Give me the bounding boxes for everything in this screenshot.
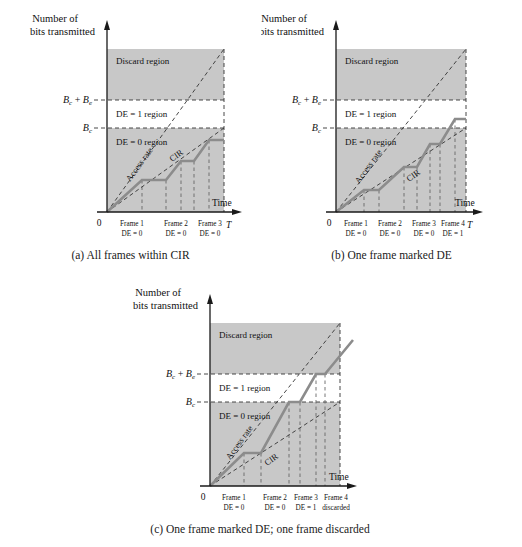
y-axis-arrow — [333, 20, 339, 30]
region-de0-label: DE = 0 region — [219, 411, 271, 421]
frame-status: DE = 0 — [380, 230, 401, 238]
frame-name: Frame 1 — [222, 494, 246, 502]
frame-name: Frame 2 — [164, 220, 188, 228]
region-de0-label: DE = 0 region — [345, 137, 397, 147]
region-de1-label: DE = 1 region — [116, 109, 168, 119]
frame-status: DE = 0 — [166, 230, 187, 238]
frame-status: DE = 0 — [346, 230, 367, 238]
region-discard-label: Discard region — [345, 56, 399, 66]
frame-name: Frame 2 — [378, 220, 402, 228]
y-axis-label-line2: bits transmitted — [30, 26, 96, 37]
x-axis-arrow — [347, 483, 357, 489]
frame-name: Frame 2 — [263, 494, 287, 502]
threshold-bc-be-label: Bc + Be — [166, 368, 195, 381]
origin-label: 0 — [327, 218, 332, 228]
frame-status: DE = 0 — [200, 230, 221, 238]
x-axis-arrow — [232, 209, 242, 215]
frame-name: Frame 1 — [120, 220, 144, 228]
panel-c-one-frame-marked-de-one-discarded: Number of bits transmitted Bc + Be Bc Di… — [120, 278, 400, 523]
frame-status: discarded — [322, 504, 350, 512]
x-axis-label: Time — [212, 198, 232, 208]
y-axis-label-line1: Number of — [261, 13, 307, 24]
region-de1-label: DE = 1 region — [345, 109, 397, 119]
region-de0-label: DE = 0 region — [116, 137, 168, 147]
y-axis-arrow — [104, 20, 110, 30]
frame-status: DE = 0 — [265, 504, 286, 512]
region-discard-label: Discard region — [219, 330, 273, 340]
panel-c-caption: (c) One frame marked DE; one frame disca… — [120, 523, 400, 535]
threshold-bc-label: Bc — [186, 396, 196, 409]
panel-a-all-frames-within-cir: Number of bits transmitted Bc + Be Bc Di… — [0, 4, 261, 249]
interval-label: T — [226, 220, 232, 230]
panel-a-caption: (a) All frames within CIR — [0, 249, 261, 261]
x-axis-label: Time — [455, 198, 475, 208]
frame-status: DE = 0 — [414, 230, 435, 238]
region-discard-label: Discard region — [116, 56, 170, 66]
y-axis-label-line1: Number of — [32, 13, 78, 24]
x-axis-label: Time — [329, 472, 349, 482]
y-axis-label-line2: bits transmitted — [133, 300, 199, 311]
threshold-bc-be-label: Bc + Be — [292, 94, 321, 107]
frame-status: DE = 1 — [443, 230, 464, 238]
region-de1-label: DE = 1 region — [219, 383, 271, 393]
origin-label: 0 — [201, 492, 206, 502]
frame-status: DE = 0 — [224, 504, 245, 512]
threshold-bc-label: Bc — [312, 122, 322, 135]
frame-name: Frame 4 — [441, 220, 465, 228]
frame-name: Frame 1 — [344, 220, 368, 228]
panel-b-caption: (b) One frame marked DE — [261, 249, 522, 261]
frame-status: DE = 1 — [296, 504, 317, 512]
origin-label: 0 — [97, 218, 102, 228]
frame-name: Frame 3 — [198, 220, 222, 228]
threshold-bc-be-label: Bc + Be — [63, 94, 92, 107]
y-axis-arrow — [207, 294, 213, 304]
frame-name: Frame 4 — [324, 494, 348, 502]
panel-b-one-frame-marked-de: Number of bits transmitted Bc + Be Bc Di… — [261, 4, 522, 249]
y-axis-label-line2: bits transmitted — [261, 26, 325, 37]
threshold-bc-label: Bc — [83, 122, 93, 135]
x-axis-arrow — [473, 209, 483, 215]
y-axis-label-line1: Number of — [135, 287, 181, 298]
frame-name: Frame 3 — [412, 220, 436, 228]
interval-label: T — [467, 220, 473, 230]
frame-status: DE = 0 — [122, 230, 143, 238]
frame-name: Frame 3 — [294, 494, 318, 502]
